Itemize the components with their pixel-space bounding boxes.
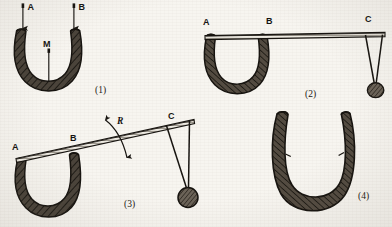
keeper-bar-3 [16,119,195,162]
figure-page: A B M (1) A B [0,0,392,227]
force-arrow-b-1 [73,3,76,28]
panel-2: A B C (2) [203,14,385,100]
force-arrow-a-1 [22,3,25,28]
panel-1: A B M (1) [14,2,106,96]
label-c-panel-3: C [168,111,175,121]
keeper-arrow-m-1 [48,49,51,85]
figure-number-4: (4) [358,191,369,202]
figure-number-2: (2) [305,89,316,100]
panel-4: (4) [272,112,369,211]
figure-number-3: (3) [124,199,135,210]
weight-suspension-2 [366,35,384,98]
hanging-weight-2 [367,83,383,98]
label-b-panel-1: B [79,2,86,12]
label-a-panel-2: A [203,17,210,27]
horseshoe-magnet-2 [204,34,269,93]
label-a-panel-1: A [28,2,35,12]
label-a-panel-3: A [12,142,19,152]
label-c-panel-2: C [365,14,372,24]
keeper-bar-2 [205,32,385,39]
weight-suspension-3 [167,121,199,208]
figure-number-1: (1) [95,85,106,96]
figure-canvas: A B M (1) A B [0,0,392,227]
label-r-panel-3: R [116,116,123,126]
label-b-panel-3: B [70,133,77,143]
horseshoe-magnet-3 [15,153,80,217]
label-b-panel-2: B [266,16,273,26]
label-m-panel-1: M [43,39,51,49]
panel-3: A B C R (3) [12,111,198,217]
horseshoe-magnet-4 [272,112,354,211]
hanging-weight-3 [178,188,198,208]
